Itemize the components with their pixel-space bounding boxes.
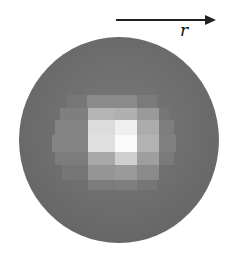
grid-cell	[115, 108, 137, 120]
grid-cell	[115, 180, 137, 190]
r-axis-label: r	[180, 20, 188, 40]
grid-cell	[62, 165, 88, 180]
grid-cell	[115, 95, 137, 108]
grid-cell	[88, 180, 115, 190]
grid-cell	[87, 95, 115, 108]
grid-cell	[137, 152, 159, 165]
grid-cell	[88, 165, 115, 180]
grid-cell	[137, 120, 159, 135]
sphere	[19, 37, 219, 243]
grid-cell	[88, 152, 115, 165]
grid-cell	[159, 152, 174, 165]
r-arrow-shaft	[116, 19, 208, 21]
grid-cell	[137, 95, 157, 108]
grid-cell	[159, 135, 176, 152]
grid-cell	[137, 108, 159, 120]
grid-cell	[55, 152, 88, 165]
grid-cell	[115, 152, 137, 165]
grid-cell	[88, 108, 115, 120]
grid-cell	[52, 135, 88, 152]
grid-cell	[67, 95, 87, 108]
grid-cell	[137, 165, 159, 180]
grid-cell	[137, 180, 157, 190]
grid-cell	[159, 120, 174, 135]
grid-cell	[55, 120, 88, 135]
grid-cell	[88, 120, 115, 135]
grid-cell	[137, 135, 159, 152]
grid-cell	[115, 165, 137, 180]
grid-cell	[88, 135, 115, 152]
grid-cell	[60, 108, 88, 120]
grid-cell	[115, 120, 137, 135]
grid-cell	[115, 135, 137, 152]
grid-cell	[159, 108, 169, 120]
arrow-right-icon	[205, 15, 216, 25]
